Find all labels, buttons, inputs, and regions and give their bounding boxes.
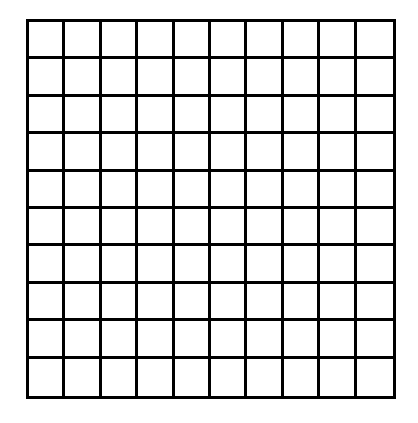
grid-cell	[102, 134, 138, 171]
grid-cell	[211, 22, 247, 59]
grid-cell	[320, 359, 356, 396]
grid-cell	[65, 134, 101, 171]
grid-cell	[320, 209, 356, 246]
grid-cell	[65, 97, 101, 134]
grid-cell	[357, 59, 393, 96]
grid-cell	[102, 321, 138, 358]
grid-cell	[284, 22, 320, 59]
grid-cell	[247, 359, 283, 396]
grid-cell	[138, 359, 174, 396]
grid-cell	[102, 97, 138, 134]
grid-cell	[102, 246, 138, 283]
grid-cell	[357, 134, 393, 171]
grid-cell	[247, 22, 283, 59]
grid-cell	[102, 22, 138, 59]
grid-cell	[284, 97, 320, 134]
grid-cell	[138, 209, 174, 246]
grid-cell	[211, 134, 247, 171]
grid-cell	[247, 59, 283, 96]
grid-cell	[175, 284, 211, 321]
grid-cell	[138, 321, 174, 358]
grid-cell	[65, 359, 101, 396]
grid-cell	[211, 59, 247, 96]
grid-cell	[357, 209, 393, 246]
grid-cell	[357, 321, 393, 358]
grid-cell	[175, 134, 211, 171]
grid-cell	[29, 321, 65, 358]
grid-cell	[65, 246, 101, 283]
grid-cell	[211, 284, 247, 321]
grid-cell	[65, 172, 101, 209]
grid-cell	[29, 172, 65, 209]
grid-cell	[29, 59, 65, 96]
grid-cell	[29, 246, 65, 283]
grid-cell	[138, 172, 174, 209]
grid-cell	[211, 209, 247, 246]
empty-grid	[26, 19, 396, 399]
grid-cell	[320, 134, 356, 171]
grid-cell	[175, 172, 211, 209]
grid-cell	[175, 359, 211, 396]
grid-cell	[138, 59, 174, 96]
grid-cell	[320, 22, 356, 59]
grid-cell	[284, 284, 320, 321]
grid-cell	[102, 209, 138, 246]
grid-cell	[29, 359, 65, 396]
grid-cell	[138, 246, 174, 283]
grid-cell	[102, 359, 138, 396]
grid-cell	[320, 246, 356, 283]
grid-cell	[320, 97, 356, 134]
grid-cell	[175, 321, 211, 358]
grid-cell	[357, 284, 393, 321]
grid-cell	[65, 22, 101, 59]
grid-cell	[284, 359, 320, 396]
grid-cell	[102, 59, 138, 96]
grid-cell	[138, 134, 174, 171]
grid-cell	[357, 246, 393, 283]
grid-cell	[284, 134, 320, 171]
grid-cell	[247, 209, 283, 246]
grid-cell	[102, 284, 138, 321]
grid-cell	[284, 321, 320, 358]
grid-cell	[357, 359, 393, 396]
grid-cell	[320, 172, 356, 209]
grid-cell	[284, 246, 320, 283]
grid-cell	[320, 284, 356, 321]
grid-cell	[65, 209, 101, 246]
grid-cell	[138, 284, 174, 321]
grid-cell	[175, 22, 211, 59]
grid-cell	[247, 321, 283, 358]
grid-cell	[29, 209, 65, 246]
grid-cell	[357, 22, 393, 59]
grid-cell	[247, 172, 283, 209]
grid-cell	[65, 284, 101, 321]
grid-cell	[211, 359, 247, 396]
grid-cell	[138, 22, 174, 59]
grid-cell	[29, 97, 65, 134]
grid-cell	[175, 209, 211, 246]
grid-cell	[175, 246, 211, 283]
grid-cell	[211, 172, 247, 209]
grid-cell	[102, 172, 138, 209]
grid-cell	[211, 246, 247, 283]
grid-cell	[357, 97, 393, 134]
grid-cell	[175, 97, 211, 134]
grid-cell	[29, 22, 65, 59]
grid-cell	[29, 134, 65, 171]
grid-cell	[65, 59, 101, 96]
grid-cell	[211, 321, 247, 358]
grid-cell	[211, 97, 247, 134]
grid-cell	[138, 97, 174, 134]
grid-cell	[247, 284, 283, 321]
grid-cell	[247, 97, 283, 134]
grid-cell	[65, 321, 101, 358]
grid-cell	[247, 134, 283, 171]
grid-cell	[320, 59, 356, 96]
grid-cell	[284, 59, 320, 96]
grid-cell	[320, 321, 356, 358]
grid-cell	[357, 172, 393, 209]
grid-cell	[284, 172, 320, 209]
grid-cell	[29, 284, 65, 321]
grid-cell	[247, 246, 283, 283]
grid-cell	[284, 209, 320, 246]
